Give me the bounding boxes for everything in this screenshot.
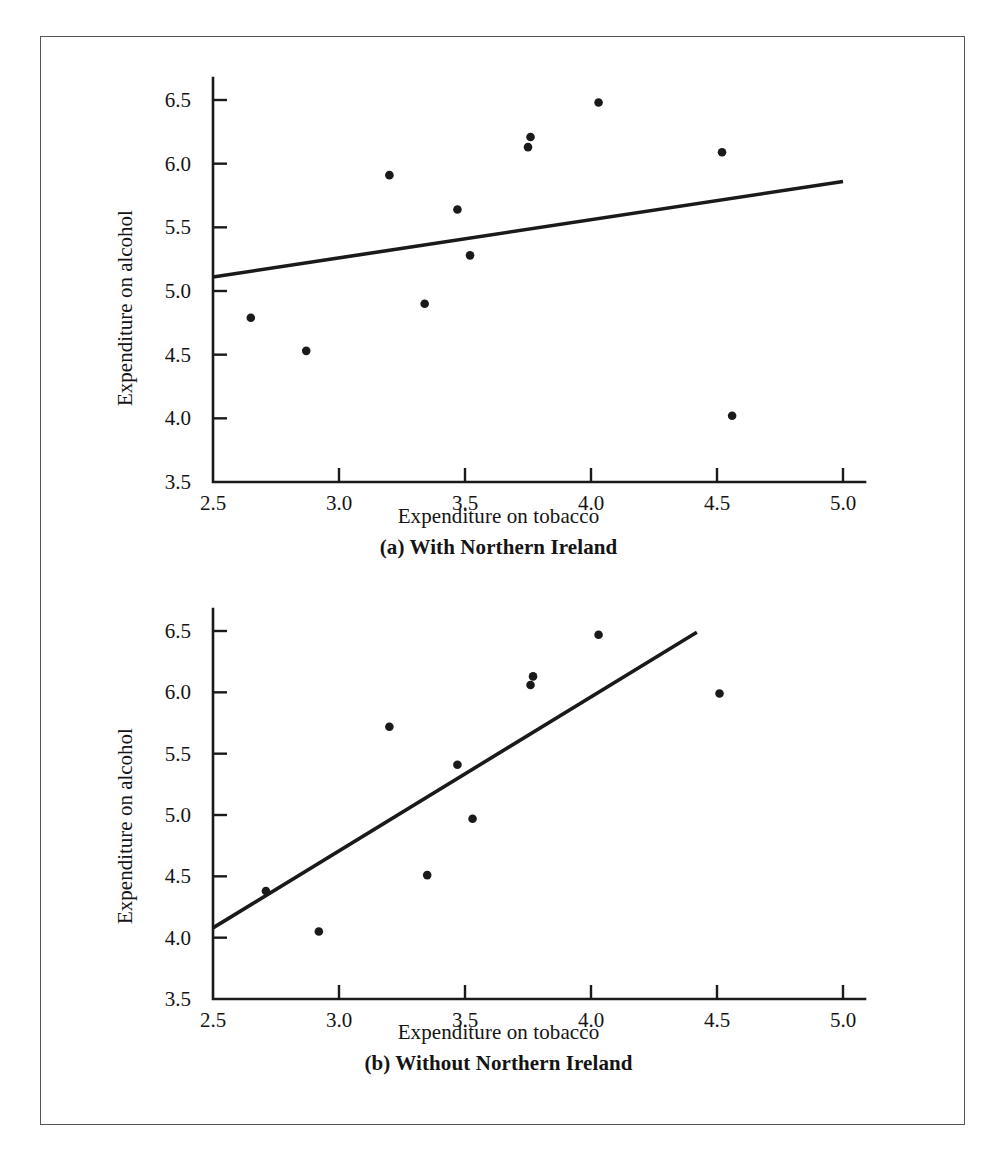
data-point-a-4 (453, 205, 462, 214)
y-tick-label-a-1: 4.0 (165, 406, 191, 430)
y-axis-title-b: Expenditure on alcohol (113, 728, 138, 924)
y-tick-label-a-0: 3.5 (165, 470, 191, 494)
data-point-a-8 (594, 98, 603, 107)
x-axis-title-a: Expenditure on tobacco (0, 504, 997, 529)
regression-line-a (213, 181, 843, 277)
data-point-a-10 (728, 411, 737, 420)
data-point-a-0 (247, 313, 256, 322)
axis-spines-a (213, 78, 865, 482)
y-tick-label-a-5: 6.0 (165, 152, 191, 176)
data-point-a-7 (526, 133, 535, 142)
data-point-a-9 (718, 148, 727, 157)
plot-area-a: 3.54.04.55.05.56.06.52.53.03.54.04.55.0 (165, 78, 865, 515)
x-axis-title-b: Expenditure on tobacco (0, 1020, 997, 1045)
data-point-a-1 (302, 347, 311, 356)
data-point-a-2 (385, 171, 394, 180)
data-point-a-6 (524, 143, 533, 152)
y-tick-label-a-6: 6.5 (165, 88, 191, 112)
panel-a: 3.54.04.55.05.56.06.52.53.03.54.04.55.0 … (0, 0, 997, 560)
data-point-a-3 (420, 299, 429, 308)
y-tick-label-a-3: 5.0 (165, 279, 191, 303)
scatter-plot-a: 3.54.04.55.05.56.06.52.53.03.54.04.55.0 (0, 0, 997, 560)
data-point-a-5 (466, 251, 475, 260)
figure-root: 3.54.04.55.05.56.06.52.53.03.54.04.55.0 … (0, 0, 997, 1150)
y-tick-label-a-4: 5.5 (165, 215, 191, 239)
panel-caption-a: (a) With Northern Ireland (0, 535, 997, 560)
y-tick-label-a-2: 4.5 (165, 343, 191, 367)
y-axis-title-a: Expenditure on alcohol (113, 210, 138, 406)
panel-caption-b: (b) Without Northern Ireland (0, 1051, 997, 1076)
